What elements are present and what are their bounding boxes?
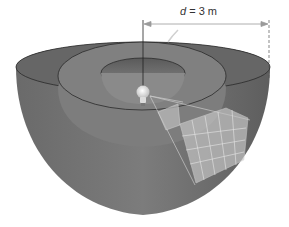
pointer-curve bbox=[168, 30, 178, 42]
distance-equals: = bbox=[189, 5, 195, 17]
distance-arrow bbox=[144, 22, 268, 27]
distance-label: d = 3 m bbox=[180, 5, 217, 17]
distance-variable: d bbox=[180, 5, 186, 17]
hemisphere-diagram bbox=[0, 0, 289, 227]
distance-value: 3 m bbox=[199, 5, 217, 17]
